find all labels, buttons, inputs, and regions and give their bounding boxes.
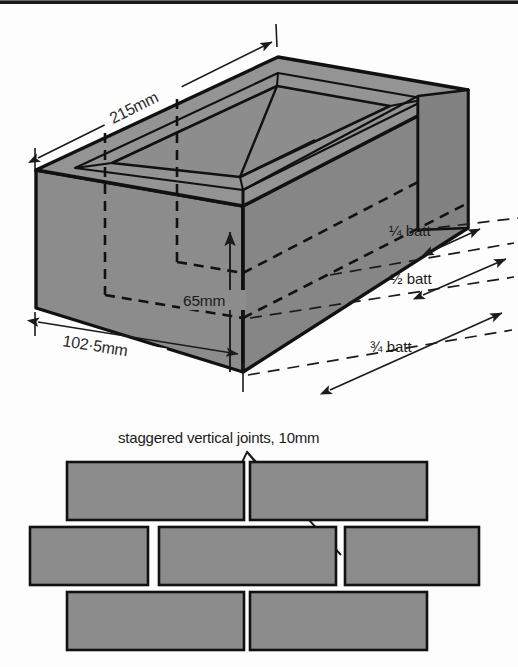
brick-r2-c1 (30, 527, 148, 585)
brick-r1-c2 (250, 462, 427, 520)
dimension-label-65mm: 65mm (183, 292, 225, 309)
brick-r2-c2 (159, 527, 336, 585)
quarter-batt-sliver-face (418, 90, 468, 230)
top-rule (0, 1, 518, 4)
dimension-tick-215mm (276, 24, 277, 47)
brick-r3-c2 (250, 592, 427, 650)
brick-r2-c3 (345, 527, 479, 585)
brick-diagram: 215mm 102·5mm 65mm (0, 0, 518, 667)
batt-label-quarter: ¼ batt (389, 222, 432, 239)
bond-wall-caption: staggered vertical joints, 10mm (118, 429, 319, 446)
brick-r1-c1 (67, 462, 244, 520)
frog-bevel-rear (277, 73, 278, 86)
bond-wall: staggered vertical joints, 10mm (30, 429, 479, 650)
batt-label-half: ½ batt (390, 270, 433, 287)
batt-label-three-quarter: ¾ batt (370, 338, 413, 355)
dimension-label-65mm-group: 65mm (180, 290, 246, 310)
figure-page: 215mm 102·5mm 65mm (0, 0, 518, 667)
brick-r3-c1 (67, 592, 244, 650)
top-rule-hairline (0, 0, 518, 1)
